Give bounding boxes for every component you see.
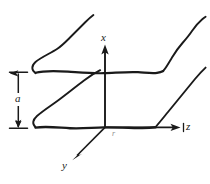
y-axis-arrowhead: [72, 152, 82, 160]
z-axis-label: z: [186, 121, 190, 132]
x-axis-label: x: [101, 32, 106, 43]
coordinate-axes: [72, 45, 183, 161]
y-axis-label: y: [62, 160, 67, 171]
upper-plate: [32, 15, 205, 73]
upper-plate-right-depth-edge: [163, 17, 206, 71]
separation-distance-label: a: [15, 93, 21, 104]
lower-plate: [33, 68, 205, 129]
lower-plate-left-depth-edge: [33, 70, 100, 127]
upper-plate-left-depth-edge: [32, 15, 93, 73]
lower-plate-right-depth-edge: [156, 68, 206, 127]
origin-label: r: [112, 130, 115, 138]
y-axis-line: [77, 127, 105, 155]
figure-canvas: x z y a r: [0, 0, 210, 184]
diagram-svg: [0, 0, 210, 184]
